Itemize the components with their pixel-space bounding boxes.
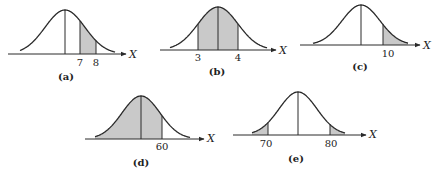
normal-curves-figure: 78X(a)34X(b)10X(c)60X(d)7080X(e) (0, 0, 434, 172)
panel-label: (a) (58, 71, 74, 82)
axis-label-x: X (206, 132, 216, 145)
tick-label: 70 (260, 138, 273, 149)
tick-label: 7 (77, 57, 83, 68)
axis-label-x: X (128, 48, 138, 61)
panel-a: 78X(a) (8, 10, 138, 82)
tick-label: 3 (195, 52, 201, 63)
panel-label: (c) (352, 61, 368, 72)
axis-label-x: X (422, 39, 432, 52)
panel-c: 10X(c) (300, 5, 432, 72)
axis-label-x: X (368, 128, 378, 141)
tick-label: 8 (93, 57, 99, 68)
panel-label: (b) (209, 66, 225, 77)
panel-d: 60X(d) (85, 96, 216, 168)
panels: 78X(a)34X(b)10X(c)60X(d)7080X(e) (8, 5, 432, 168)
tick-label: 60 (156, 141, 169, 152)
axis-label-x: X (278, 44, 288, 57)
tick-label: 80 (325, 138, 338, 149)
normal-curve (20, 10, 115, 52)
tick-label: 10 (382, 48, 395, 59)
panel-label: (e) (288, 153, 304, 164)
tick-label: 4 (235, 52, 241, 63)
panel-e: 7080X(e) (233, 92, 378, 164)
panel-label: (d) (133, 157, 149, 168)
panel-b: 34X(b) (160, 7, 288, 77)
